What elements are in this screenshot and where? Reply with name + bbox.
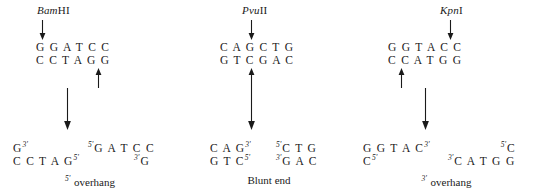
cleavage-reaction-arrow-pvuii xyxy=(246,88,257,130)
recognition-site-top-strand-bamhi: G G A T C C xyxy=(36,41,110,55)
cleavage-reaction-arrow-bamhi xyxy=(62,88,73,130)
recognition-site-bottom-strand-kpni: C C A T G G xyxy=(388,54,462,68)
enzyme-panel-pvuii: PvuII C A G C T G G T C G A C C A G3' G … xyxy=(180,0,358,194)
product-right-bottom-strand-pvuii: 3'G A C xyxy=(276,151,318,168)
recognition-site-bottom-strand-bamhi: C C T A G G xyxy=(36,54,110,68)
product-right-bottom-strand-bamhi: 3'G xyxy=(88,151,150,168)
bottom-strand-cut-arrow-pvuii xyxy=(247,68,256,88)
enzyme-label-pvuii: PvuII xyxy=(242,4,267,16)
recognition-site-top-strand-pvuii: C A G C T G xyxy=(220,41,294,55)
panel-caption-pvuii: Blunt end xyxy=(180,174,358,186)
enzyme-label-bamhi: BamHI xyxy=(37,4,70,16)
bottom-strand-cut-arrow-kpni xyxy=(397,68,406,88)
product-left-bottom-strand-pvuii: G T C5' xyxy=(210,151,250,168)
top-strand-cut-arrow-bamhi xyxy=(38,20,47,40)
product-left-bottom-strand-bamhi: C C T A G5' xyxy=(13,151,79,168)
cleavage-reaction-arrow-kpni xyxy=(420,88,431,130)
product-left-bottom-strand-kpni: C5' xyxy=(363,151,377,168)
bottom-strand-cut-arrow-bamhi xyxy=(94,68,103,88)
enzyme-panel-kpni: KpnI G G T A C C C C A T G G G G T A C3'… xyxy=(358,0,535,194)
enzyme-label-kpni: KpnI xyxy=(440,4,463,16)
recognition-site-bottom-strand-pvuii: G T C G A C xyxy=(220,54,294,68)
panel-caption-kpni: 3' overhang xyxy=(358,174,535,188)
panel-caption-bamhi: 5' overhang xyxy=(0,174,180,188)
top-strand-cut-arrow-pvuii xyxy=(247,20,256,40)
top-strand-cut-arrow-kpni xyxy=(446,20,455,40)
enzyme-panel-bamhi: BamHI G G A T C C C C T A G G G3' C C T … xyxy=(0,0,180,194)
recognition-site-top-strand-kpni: G G T A C C xyxy=(388,41,462,55)
product-right-bottom-strand-kpni: 3'C A T G G xyxy=(448,151,516,168)
